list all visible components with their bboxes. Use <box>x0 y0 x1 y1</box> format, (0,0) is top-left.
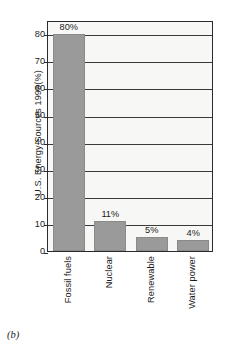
x-axis-category-label: Fossil fuels <box>63 256 73 303</box>
y-axis-tick-mark <box>44 144 48 145</box>
x-axis-label-slot: Fossil fuels <box>47 252 89 332</box>
y-axis-tick-label: 60 <box>24 84 45 93</box>
y-axis-tick-mark <box>44 35 48 36</box>
y-axis-tick-mark <box>44 62 48 63</box>
bar <box>94 221 126 251</box>
bar-value-label: 11% <box>82 209 138 219</box>
y-axis-tick-mark <box>44 198 48 199</box>
bar-value-label: 4% <box>165 228 221 238</box>
figure-caption: (b) <box>7 329 19 340</box>
x-axis-label-slot: Renewable <box>130 252 172 332</box>
x-axis-label-slot: Water power <box>172 252 214 332</box>
y-axis-tick-label: 50 <box>24 111 45 120</box>
x-axis-label-slot: Nuclear <box>89 252 131 332</box>
y-axis-tick-label: 30 <box>24 165 45 174</box>
y-axis-tick-mark <box>44 171 48 172</box>
y-axis-tick-labels: 01020304050607080 <box>24 21 45 252</box>
x-axis-category-label: Nuclear <box>104 256 114 288</box>
bar <box>136 237 168 251</box>
y-axis-tick-mark <box>44 225 48 226</box>
y-axis-tick-label: 70 <box>24 57 45 66</box>
y-axis-tick-label: 10 <box>24 220 45 229</box>
y-axis-tick-label: 40 <box>24 138 45 147</box>
x-axis-category-label: Renewable <box>146 256 156 303</box>
energy-sources-bar-chart: U.S. Energy Sources 1999(%) 010203040506… <box>0 0 229 351</box>
y-axis-tick-mark <box>44 117 48 118</box>
bar <box>53 34 85 251</box>
y-axis-tick-label: 0 <box>24 247 45 256</box>
x-axis-category-labels: Fossil fuelsNuclearRenewableWater power <box>47 252 213 332</box>
x-axis-category-label: Water power <box>187 256 197 309</box>
plot-inner: 80%11%5%4% <box>48 22 212 251</box>
y-axis-tick-mark <box>44 89 48 90</box>
y-axis-tick-label: 20 <box>24 193 45 202</box>
bar <box>177 240 209 251</box>
bar-value-label: 80% <box>41 22 97 32</box>
plot-area: 80%11%5%4% <box>47 21 213 252</box>
